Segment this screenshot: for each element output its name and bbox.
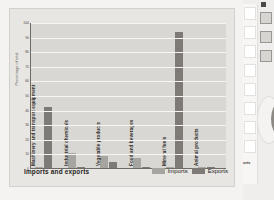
gridline (31, 154, 226, 155)
bar-exports (44, 107, 52, 168)
screenshot-root: Percentage of total 01020304050607080901… (0, 0, 274, 200)
y-tick-label: 70 (16, 64, 29, 70)
app-sidebar: orts (243, 0, 274, 200)
sidebar-caption: orts (243, 160, 251, 165)
sidebar-thumbnail[interactable] (260, 31, 272, 43)
sidebar-marker-icon (261, 2, 266, 7)
y-tick-label: 60 (16, 78, 29, 84)
sidebar-slot[interactable] (244, 7, 256, 20)
chart-legend: ImportsExports (152, 168, 228, 174)
sidebar-slot[interactable] (244, 83, 256, 96)
y-tick-label: 40 (16, 108, 29, 114)
y-tick-label: 100 (16, 20, 29, 26)
sidebar-slot[interactable] (244, 121, 256, 134)
sidebar-thumbnail[interactable] (260, 50, 272, 62)
y-tick-label: 30 (16, 122, 29, 128)
gridline (31, 23, 226, 24)
y-axis-ticks: 0102030405060708090100 (16, 23, 29, 169)
y-tick-label: 20 (16, 137, 29, 143)
gridline (31, 67, 226, 68)
sidebar-slot[interactable] (244, 140, 256, 153)
category-label: Animal products (194, 128, 199, 166)
category-label: Food and beverages (129, 120, 134, 166)
chart-title: Imports and exports (24, 168, 89, 175)
chart-footer: Imports and exports ImportsExports (10, 166, 236, 180)
legend-item: Imports (152, 168, 188, 174)
chart-card: Percentage of total 01020304050607080901… (9, 8, 235, 187)
y-tick-label: 50 (16, 93, 29, 99)
sidebar-slot[interactable] (244, 26, 256, 39)
category-label: Industrial chemicals (64, 120, 69, 166)
legend-swatch (152, 168, 165, 174)
legend-label: Imports (168, 168, 188, 174)
bar-chart: Percentage of total 01020304050607080901… (10, 9, 236, 188)
gridline (31, 125, 226, 126)
legend-label: Exports (208, 168, 228, 174)
gridline (31, 140, 226, 141)
sidebar-slot[interactable] (244, 45, 256, 58)
plot-area: Machinery and transport equipmentIndustr… (30, 23, 226, 169)
y-tick-label: 80 (16, 49, 29, 55)
gridline (31, 38, 226, 39)
sidebar-slot[interactable] (244, 64, 256, 77)
legend-swatch (192, 168, 205, 174)
sidebar-slot[interactable] (244, 102, 256, 115)
category-label: Mineral fuels (162, 137, 167, 166)
gridline (31, 52, 226, 53)
document-page: Percentage of total 01020304050607080901… (0, 0, 243, 200)
category-label: Vegetable products (96, 122, 101, 166)
legend-item: Exports (192, 168, 228, 174)
gridline (31, 96, 226, 97)
gridline (31, 81, 226, 82)
y-tick-label: 10 (16, 151, 29, 157)
y-tick-label: 90 (16, 35, 29, 41)
sidebar-thumbnail[interactable] (260, 12, 272, 24)
gridline (31, 111, 226, 112)
sidebar-slot-strip[interactable] (243, 4, 258, 184)
